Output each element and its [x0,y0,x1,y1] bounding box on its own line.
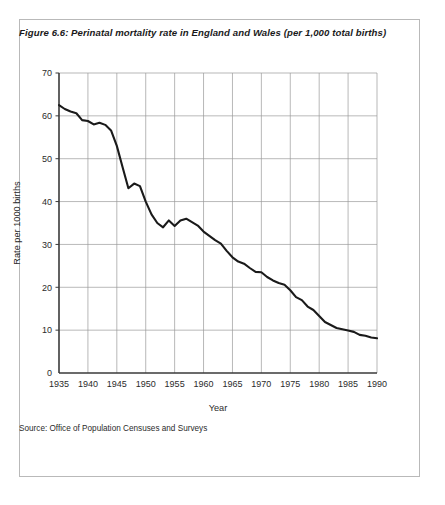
gridlines [59,73,377,373]
x-tick-label: 1965 [222,379,242,389]
y-tick-labels: 010203040506070 [42,68,59,378]
x-tick-label: 1985 [338,379,358,389]
x-tick-label: 1975 [280,379,300,389]
y-tick-label: 70 [42,68,52,78]
x-tick-label: 1990 [367,379,387,389]
x-tick-label: 1950 [136,379,156,389]
x-tick-labels: 1935194019451950195519601965197019751980… [49,379,387,389]
y-tick-label: 50 [42,154,52,164]
chart-plot: 1935194019451950195519601965197019751980… [0,0,401,458]
source-note: Source: Office of Population Censuses an… [19,424,207,433]
x-tick-label: 1935 [49,379,69,389]
y-tick-label: 40 [42,197,52,207]
y-tick-label: 20 [42,283,52,293]
x-tick-label: 1970 [251,379,271,389]
y-tick-label: 30 [42,240,52,250]
x-tick-label: 1960 [194,379,214,389]
x-axis-title: Year [209,403,228,413]
axis-lines [59,73,377,373]
y-tick-label: 60 [42,111,52,121]
perinatal-mortality-line-chart: 1935194019451950195519601965197019751980… [0,0,401,458]
y-tick-label: 0 [47,368,52,378]
data-line-group [59,105,377,338]
x-tick-label: 1945 [107,379,127,389]
x-tick-label: 1980 [309,379,329,389]
x-tick-label: 1940 [78,379,98,389]
data-line-perinatal-mortality-rate [59,105,377,338]
y-axis-title: Rate per 1000 births [12,181,22,265]
y-tick-label: 10 [42,325,52,335]
x-tick-label: 1955 [165,379,185,389]
